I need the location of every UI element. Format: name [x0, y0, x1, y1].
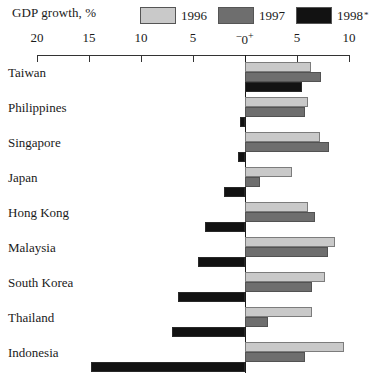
bar-1998	[178, 292, 245, 302]
footnote-asterisk: *	[364, 10, 369, 20]
chart-row: Hong Kong	[0, 202, 366, 237]
chart-row: Japan	[0, 167, 366, 202]
bar-1997	[245, 317, 268, 327]
x-axis-tick-label: 5	[294, 30, 301, 46]
bar-1997	[245, 352, 305, 362]
chart-row: Philippines	[0, 97, 366, 132]
bar-1997	[245, 72, 321, 82]
bar-1997	[245, 212, 315, 222]
bar-1997	[245, 177, 260, 187]
bar-1996	[245, 307, 312, 317]
bar-group	[0, 237, 366, 272]
x-axis-tick-label: 10	[343, 30, 356, 46]
bar-1997	[245, 142, 329, 152]
bar-group	[0, 97, 366, 132]
legend-item-1997: 1997	[218, 5, 285, 25]
x-axis-tick-label: 10	[135, 30, 148, 46]
bar-1996	[245, 342, 344, 352]
x-axis-tick	[37, 55, 38, 62]
x-axis-tick-label: 20	[31, 30, 44, 46]
chart-legend: 1996 1997 1998 *	[140, 5, 366, 25]
bar-1996	[245, 62, 311, 72]
bar-1998	[245, 82, 302, 92]
bar-1996	[245, 202, 308, 212]
bar-1996	[245, 237, 335, 247]
chart-row: Thailand	[0, 307, 366, 342]
legend-item-1996: 1996	[140, 5, 207, 25]
bar-group	[0, 202, 366, 237]
bar-1997	[245, 247, 328, 257]
bar-group	[0, 167, 366, 202]
x-axis-tick	[349, 55, 350, 62]
bar-1998	[238, 152, 245, 162]
chart-row: Indonesia	[0, 342, 366, 377]
bar-group	[0, 272, 366, 307]
x-axis-tick-labels: 2015105–0+510	[0, 30, 366, 48]
chart-plot-area: 2015105–0+510 TaiwanPhilippinesSingapore…	[0, 30, 366, 380]
bar-1998	[172, 327, 245, 337]
bar-group	[0, 62, 366, 97]
bar-1996	[245, 132, 320, 142]
legend-label-1996: 1996	[181, 7, 207, 24]
bar-1996	[245, 97, 308, 107]
x-axis-tick-label: 5	[190, 30, 197, 46]
bar-1998	[224, 187, 245, 197]
bar-1997	[245, 107, 305, 117]
bar-1998	[198, 257, 245, 267]
axis-plus-sign: +	[248, 30, 254, 41]
x-axis-tick	[141, 55, 142, 62]
x-axis-tick-label-zero: –0+	[236, 30, 253, 48]
legend-swatch-1996	[140, 7, 176, 24]
chart-row: Taiwan	[0, 62, 366, 97]
bar-1998	[205, 222, 245, 232]
legend-label-1998: 1998	[337, 7, 363, 24]
x-axis-tick-label: 15	[83, 30, 96, 46]
legend-item-1998: 1998 *	[296, 5, 369, 25]
chart-rows: TaiwanPhilippinesSingaporeJapanHong Kong…	[0, 62, 366, 377]
x-axis-tick	[297, 55, 298, 62]
chart-row: Malaysia	[0, 237, 366, 272]
chart-title: GDP growth, %	[12, 5, 96, 21]
bar-group	[0, 307, 366, 342]
bar-1998	[240, 117, 245, 127]
bar-1996	[245, 167, 292, 177]
chart-header: GDP growth, % 1996 1997 1998 *	[0, 0, 366, 30]
chart-row: Singapore	[0, 132, 366, 167]
chart-row: South Korea	[0, 272, 366, 307]
bar-1998	[91, 362, 245, 372]
legend-label-1997: 1997	[259, 7, 285, 24]
bar-group	[0, 132, 366, 167]
x-axis-tick	[193, 55, 194, 62]
bar-1996	[245, 272, 325, 282]
legend-swatch-1997	[218, 7, 254, 24]
legend-swatch-1998	[296, 7, 332, 24]
bar-group	[0, 342, 366, 377]
x-axis-tick	[89, 55, 90, 62]
bar-1997	[245, 282, 312, 292]
